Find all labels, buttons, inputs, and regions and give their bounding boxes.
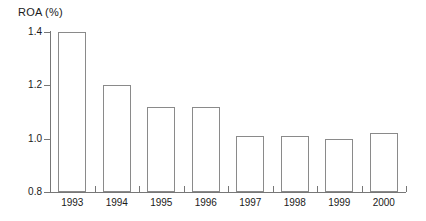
x-axis-label: 1996 (184, 197, 229, 208)
chart-title: ROA (%) (18, 6, 63, 18)
y-axis-label: 1.4 (28, 27, 42, 37)
x-axis-tick (184, 186, 185, 192)
bar (58, 32, 86, 192)
bar (236, 136, 264, 192)
x-axis-tick (95, 186, 96, 192)
y-axis-tick (44, 85, 50, 86)
x-axis-tick (406, 186, 407, 192)
x-axis-label: 1999 (317, 197, 362, 208)
bar (325, 139, 353, 192)
bar (281, 136, 309, 192)
bar (147, 107, 175, 192)
x-axis-tick (50, 186, 51, 192)
y-axis-tick (44, 32, 50, 33)
x-axis-label: 2000 (362, 197, 407, 208)
x-axis-tick (317, 186, 318, 192)
x-axis-label: 1994 (95, 197, 140, 208)
x-axis-tick (273, 186, 274, 192)
x-axis-label: 1998 (273, 197, 318, 208)
plot-area (50, 32, 405, 192)
x-axis-tick (228, 186, 229, 192)
x-axis-label: 1997 (228, 197, 273, 208)
y-axis-label: 1.2 (28, 80, 42, 90)
bar (370, 133, 398, 192)
bar (103, 85, 131, 192)
x-axis-line (50, 192, 406, 193)
y-axis-tick (44, 139, 50, 140)
x-axis-tick (362, 186, 363, 192)
y-axis-tick (44, 192, 50, 193)
y-axis-label: 1.0 (28, 134, 42, 144)
bar (192, 107, 220, 192)
x-axis-label: 1995 (139, 197, 184, 208)
x-axis-label: 1993 (50, 197, 95, 208)
bar-chart: ROA (%) 0.81.01.21.419931994199519961997… (0, 0, 426, 221)
x-axis-tick (139, 186, 140, 192)
y-axis-label: 0.8 (28, 187, 42, 197)
